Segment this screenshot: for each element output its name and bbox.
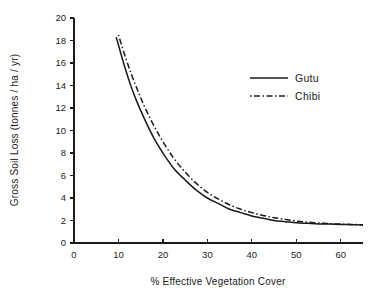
axis-group: [74, 18, 363, 243]
legend-label-gutu: Gutu: [295, 72, 319, 84]
y-tick-label: 16: [55, 57, 66, 68]
y-tick-label: 6: [61, 170, 66, 181]
chart-legend: Gutu Chibi: [250, 72, 320, 102]
x-tick-label: 60: [335, 249, 346, 260]
y-tick-label: 10: [55, 125, 66, 136]
y-tick-label: 2: [61, 215, 66, 226]
y-axis-ticks: 02468101214161820: [55, 12, 74, 248]
y-tick-label: 8: [61, 147, 66, 158]
chart-figure: 02468101214161820 0102030405060 Gutu Chi…: [0, 0, 373, 301]
x-tick-label: 30: [202, 249, 213, 260]
y-tick-label: 20: [55, 12, 66, 23]
series-line-gutu: [116, 37, 363, 225]
line-chart: 02468101214161820 0102030405060 Gutu Chi…: [0, 0, 373, 301]
x-tick-label: 20: [158, 249, 169, 260]
series-line-chibi: [118, 35, 363, 225]
y-tick-label: 18: [55, 35, 66, 46]
y-tick-label: 14: [55, 80, 66, 91]
legend-label-chibi: Chibi: [295, 90, 320, 102]
x-tick-label: 0: [71, 249, 76, 260]
x-tick-label: 50: [291, 249, 302, 260]
series-group: [116, 35, 363, 225]
y-tick-label: 0: [61, 237, 66, 248]
x-axis-title: % Effective Vegetation Cover: [151, 276, 286, 287]
x-tick-label: 40: [247, 249, 258, 260]
y-tick-label: 4: [61, 192, 66, 203]
y-axis-title: Gross Soil Loss (tonnes / ha / yr): [9, 54, 20, 206]
x-tick-label: 10: [113, 249, 124, 260]
y-tick-label: 12: [55, 102, 66, 113]
x-axis-ticks: 0102030405060: [71, 239, 346, 261]
